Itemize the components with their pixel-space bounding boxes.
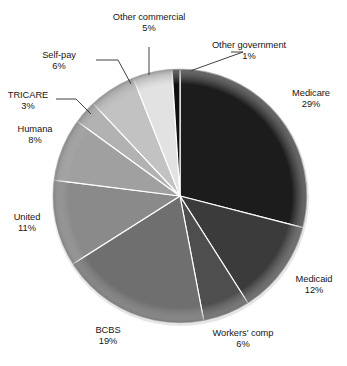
slice-label-united-name: United [3, 212, 51, 223]
slice-label-united-value: 11% [3, 223, 51, 234]
slice-label-bcbs-name: BCBS [84, 325, 132, 336]
slice-label-other-government: Other government 1% [187, 40, 311, 62]
slice-label-bcbs: BCBS 19% [84, 325, 132, 347]
slice-label-workers-comp: Workers' comp 6% [196, 328, 290, 350]
slice-label-self-pay: Self-pay 6% [28, 50, 90, 72]
slice-label-humana: Humana 8% [8, 124, 62, 146]
slice-label-self-pay-name: Self-pay [28, 50, 90, 61]
slice-label-bcbs-value: 19% [84, 336, 132, 347]
slice-label-medicaid-value: 12% [285, 285, 343, 296]
slice-label-humana-value: 8% [8, 135, 62, 146]
slice-label-other-commercial-name: Other commercial [78, 12, 220, 23]
pie-rim-highlight [53, 69, 307, 323]
leader-line-self-pay [96, 60, 131, 84]
slice-label-medicare: Medicare 29% [281, 88, 341, 110]
slice-label-workers-comp-value: 6% [196, 339, 290, 350]
slice-label-self-pay-value: 6% [28, 61, 90, 72]
slice-label-humana-name: Humana [8, 124, 62, 135]
slice-label-other-commercial-value: 5% [78, 23, 220, 34]
slice-label-medicare-name: Medicare [281, 88, 341, 99]
slice-label-medicaid-name: Medicaid [285, 274, 343, 285]
slice-label-other-government-name: Other government [187, 40, 311, 51]
slice-label-medicare-value: 29% [281, 99, 341, 110]
slice-label-other-commercial: Other commercial 5% [78, 12, 220, 34]
slice-label-tricare-name: TRICARE [3, 90, 53, 101]
slice-label-workers-comp-name: Workers' comp [196, 328, 290, 339]
slice-label-other-government-value: 1% [187, 51, 311, 62]
slice-label-tricare-value: 3% [3, 101, 53, 112]
slice-label-united: United 11% [3, 212, 51, 234]
pie-chart-figure: Other commercial 5% Other government 1% … [0, 0, 347, 366]
slice-label-medicaid: Medicaid 12% [285, 274, 343, 296]
slice-label-tricare: TRICARE 3% [3, 90, 53, 112]
